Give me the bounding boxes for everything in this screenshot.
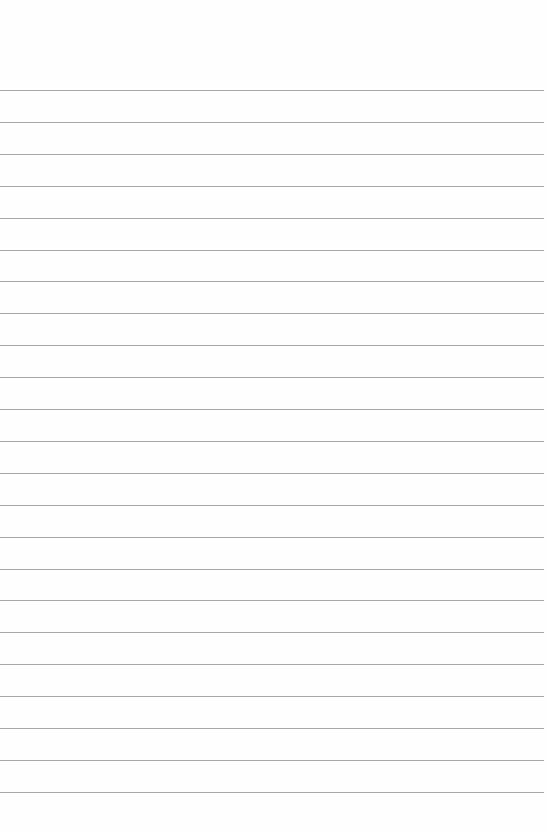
ruled-paper <box>0 0 548 834</box>
ruled-line <box>0 537 544 538</box>
ruled-line <box>0 569 544 570</box>
ruled-line <box>0 696 544 697</box>
ruled-line <box>0 218 544 219</box>
ruled-line <box>0 505 544 506</box>
ruled-line <box>0 186 544 187</box>
ruled-line <box>0 473 544 474</box>
ruled-line <box>0 154 544 155</box>
ruled-line <box>0 122 544 123</box>
ruled-line <box>0 792 544 793</box>
ruled-line <box>0 441 544 442</box>
ruled-line <box>0 345 544 346</box>
ruled-line <box>0 409 544 410</box>
ruled-line <box>0 377 544 378</box>
ruled-line <box>0 600 544 601</box>
ruled-line <box>0 250 544 251</box>
ruled-line <box>0 281 544 282</box>
ruled-line <box>0 728 544 729</box>
ruled-line <box>0 313 544 314</box>
ruled-line <box>0 632 544 633</box>
ruled-line <box>0 664 544 665</box>
ruled-line <box>0 760 544 761</box>
ruled-line <box>0 90 544 91</box>
